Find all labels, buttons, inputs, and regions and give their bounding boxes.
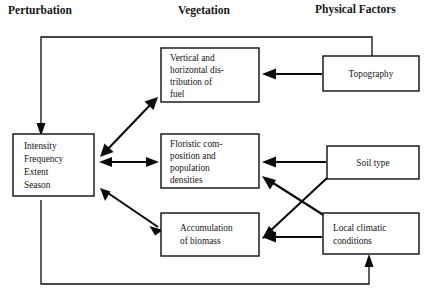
floristic-line-3: population	[170, 163, 210, 173]
fuel-distribution-box[interactable]: Vertical and horizontal dis- tribution o…	[161, 48, 259, 102]
soil-type-label: Soil type	[356, 158, 389, 168]
biomass-accumulation-box[interactable]: Accumulation of biomass	[161, 213, 259, 256]
figure-canvas: Perturbation Vegetation Physical Factors	[0, 0, 430, 301]
connector-perturbation-biomass	[100, 188, 163, 236]
floristic-composition-box[interactable]: Floristic com- position and population d…	[161, 134, 259, 188]
connector-topography-fuel	[262, 69, 322, 80]
connector-soiltype-floristic	[262, 157, 326, 168]
fuel-line-3: tribution of	[170, 77, 213, 87]
floristic-line-4: densities	[170, 175, 203, 185]
fuel-line-2: horizontal dis-	[170, 65, 224, 75]
flow-diagram: Perturbation Vegetation Physical Factors	[0, 0, 430, 301]
connector-perturbation-floristic	[99, 157, 159, 167]
floristic-line-2: position and	[170, 151, 216, 161]
perturbation-line-intensity: Intensity	[24, 141, 57, 151]
connector-soiltype-biomass	[262, 178, 327, 239]
biomass-line-2: of biomass	[180, 236, 221, 246]
heading-perturbation: Perturbation	[8, 4, 72, 16]
floristic-line-1: Floristic com-	[170, 139, 222, 149]
perturbation-attributes-box[interactable]: Intensity Frequency Extent Season	[13, 134, 94, 196]
perturbation-line-season: Season	[24, 180, 51, 190]
topography-box[interactable]: Topography	[323, 56, 419, 91]
connector-perturbation-fuel	[100, 97, 158, 157]
local-climatic-conditions-box[interactable]: Local climatic conditions	[323, 213, 419, 254]
fuel-line-4: fuel	[170, 89, 185, 99]
perturbation-line-frequency: Frequency	[24, 154, 64, 164]
fuel-line-1: Vertical and	[170, 53, 215, 63]
topography-label: Topography	[349, 69, 394, 79]
climate-line-1: Local climatic	[333, 223, 386, 233]
climate-line-2: conditions	[333, 236, 372, 246]
soil-type-box[interactable]: Soil type	[327, 146, 419, 179]
perturbation-line-extent: Extent	[24, 167, 49, 177]
heading-vegetation: Vegetation	[178, 4, 231, 17]
biomass-line-1: Accumulation	[180, 223, 233, 233]
heading-physical-factors: Physical Factors	[315, 3, 396, 16]
